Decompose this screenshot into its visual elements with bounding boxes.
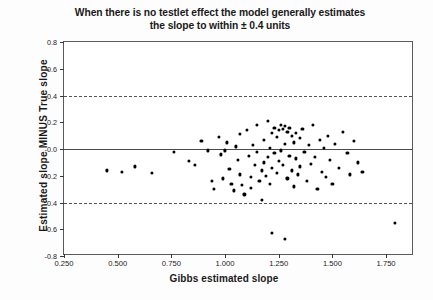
y-axis-tick-label: -0.0	[45, 145, 57, 154]
data-point	[346, 151, 349, 154]
data-point	[238, 173, 241, 176]
data-point	[294, 157, 297, 160]
data-point	[221, 177, 224, 180]
data-point	[284, 125, 287, 128]
data-point	[299, 165, 302, 168]
chart-title-line-2: the slope to within ± 0.4 units	[40, 20, 400, 33]
x-axis-tick-label: 0.500	[108, 259, 127, 268]
data-point	[331, 182, 334, 185]
data-point	[260, 169, 263, 172]
x-axis-tick	[171, 254, 172, 258]
data-point	[342, 130, 345, 133]
x-axis-tick	[386, 254, 387, 258]
data-point	[226, 141, 229, 144]
data-point	[286, 130, 289, 133]
x-axis-tick	[118, 254, 119, 258]
data-point	[281, 163, 284, 166]
data-point	[393, 221, 396, 224]
data-point	[249, 186, 252, 189]
data-point	[303, 150, 306, 153]
data-point	[269, 182, 272, 185]
y-axis-tick-label: -0.6	[45, 225, 57, 234]
data-point	[327, 134, 330, 137]
data-point	[311, 123, 314, 126]
data-point	[292, 141, 295, 144]
scatter-chart: When there is no testlet effect the mode…	[0, 0, 433, 300]
data-point	[352, 139, 355, 142]
data-point	[254, 163, 257, 166]
data-point	[273, 151, 276, 154]
data-point	[296, 173, 299, 176]
data-point	[241, 184, 244, 187]
data-point	[105, 169, 108, 172]
y-axis-tick-label: -0.2	[45, 172, 57, 181]
data-point	[281, 127, 284, 130]
data-point	[245, 129, 248, 132]
data-point	[223, 149, 226, 152]
data-point	[322, 146, 325, 149]
data-point	[236, 158, 239, 161]
data-point	[290, 134, 293, 137]
data-point	[286, 177, 289, 180]
x-axis-tick-label: 1.750	[377, 259, 396, 268]
data-point	[120, 170, 123, 173]
data-point	[266, 155, 269, 158]
data-point	[309, 162, 312, 165]
data-point	[292, 185, 295, 188]
data-point	[357, 161, 360, 164]
data-point	[264, 174, 267, 177]
x-axis-tick-label: 1.000	[216, 259, 235, 268]
y-axis-tick-label: 0.6	[47, 65, 57, 74]
data-point	[234, 145, 237, 148]
data-point	[290, 169, 293, 172]
data-point	[266, 119, 269, 122]
x-axis-tick-label: 0.250	[54, 259, 73, 268]
data-point	[269, 146, 272, 149]
data-point	[238, 133, 241, 136]
data-point	[277, 129, 280, 132]
chart-title-line-1: When there is no testlet effect the mode…	[40, 7, 400, 20]
data-point	[251, 143, 254, 146]
data-point	[294, 131, 297, 134]
x-axis-tick	[64, 254, 65, 258]
y-axis-tick-label: 0.8	[47, 38, 57, 47]
x-axis-tick-label: 1.250	[269, 259, 288, 268]
data-point	[172, 150, 175, 153]
y-axis-tick-label: 0.4	[47, 92, 57, 101]
data-point	[284, 237, 287, 240]
data-point	[333, 142, 336, 145]
x-axis-tick-label: 0.750	[162, 259, 181, 268]
data-point	[279, 123, 282, 126]
data-point	[307, 143, 310, 146]
data-point	[256, 150, 259, 153]
data-point	[213, 188, 216, 191]
data-points-layer	[64, 42, 412, 254]
data-point	[243, 193, 246, 196]
x-axis-tick	[332, 254, 333, 258]
data-point	[217, 135, 220, 138]
data-point	[193, 163, 196, 166]
data-point	[247, 154, 250, 157]
data-point	[271, 131, 274, 134]
x-axis-title: Gibbs estimated slope	[63, 273, 385, 284]
data-point	[228, 167, 231, 170]
data-point	[200, 139, 203, 142]
data-point	[337, 166, 340, 169]
data-point	[271, 166, 274, 169]
data-point	[150, 171, 153, 174]
y-axis-tick-label: -0.4	[45, 199, 57, 208]
data-point	[211, 180, 214, 183]
x-axis-tick	[225, 254, 226, 258]
data-point	[320, 170, 323, 173]
data-point	[275, 171, 278, 174]
data-point	[258, 180, 261, 183]
data-point	[279, 149, 282, 152]
data-point	[329, 158, 332, 161]
data-point	[348, 173, 351, 176]
data-point	[361, 170, 364, 173]
data-point	[324, 175, 327, 178]
data-point	[316, 188, 319, 191]
data-point	[232, 189, 235, 192]
data-point	[288, 126, 291, 129]
data-point	[260, 198, 263, 201]
